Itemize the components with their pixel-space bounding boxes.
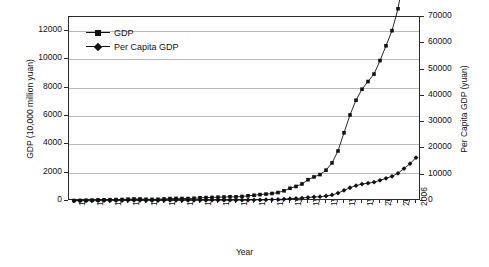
y-axis-left-tick-label: 0 xyxy=(18,194,62,204)
data-point-marker-square xyxy=(324,168,328,172)
legend-item-gdp: GDP xyxy=(86,26,179,39)
data-point-marker-square xyxy=(264,192,268,196)
data-point-marker-square xyxy=(384,44,388,48)
y-axis-right-tick-label: 0 xyxy=(428,194,472,204)
y-axis-right-tick-label: 40000 xyxy=(428,89,472,99)
y-axis-right-tick-label: 60000 xyxy=(428,36,472,46)
data-point-marker-square xyxy=(354,98,358,102)
data-point-marker-square xyxy=(252,193,256,197)
data-point-marker-diamond xyxy=(312,195,317,200)
data-point-marker-diamond xyxy=(300,196,305,201)
data-point-marker-square xyxy=(360,87,364,91)
diamond-marker-icon xyxy=(86,41,110,52)
y-axis-left-tick-label: 4000 xyxy=(18,137,62,147)
data-point-marker-square xyxy=(300,182,304,186)
y-axis-left-tick-mark xyxy=(64,200,68,201)
square-marker-icon xyxy=(86,27,110,38)
data-point-marker-square xyxy=(318,173,322,177)
data-point-marker-square xyxy=(246,194,250,198)
y-axis-left-tick-label: 12000 xyxy=(18,24,62,34)
data-point-marker-diamond xyxy=(306,195,311,200)
data-point-marker-diamond xyxy=(354,183,359,188)
data-point-marker-diamond xyxy=(342,188,347,193)
y-axis-left-tick-label: 2000 xyxy=(18,166,62,176)
x-axis-title: Year xyxy=(0,247,489,257)
data-point-marker-square xyxy=(390,29,394,33)
data-point-marker-diamond xyxy=(324,194,329,199)
y-axis-right-tick-label: 10000 xyxy=(428,168,472,178)
data-point-marker-square xyxy=(396,7,400,11)
legend-label-per-capita-gdp: Per Capita GDP xyxy=(114,42,179,52)
data-point-marker-square xyxy=(306,178,310,182)
data-point-marker-square xyxy=(282,189,286,193)
y-axis-left-tick-label: 8000 xyxy=(18,81,62,91)
data-point-marker-square xyxy=(330,161,334,165)
y-axis-right-tick-label: 70000 xyxy=(428,10,472,20)
legend-item-per-capita-gdp: Per Capita GDP xyxy=(86,40,179,53)
data-point-marker-square xyxy=(270,192,274,196)
data-point-marker-diamond xyxy=(348,185,353,190)
legend-label-gdp: GDP xyxy=(114,28,134,38)
data-point-marker-diamond xyxy=(384,176,389,181)
data-point-marker-square xyxy=(258,193,262,197)
data-point-marker-diamond xyxy=(282,197,287,202)
y-axis-right-tick-label: 30000 xyxy=(428,115,472,125)
data-point-marker-diamond xyxy=(330,193,335,198)
data-point-marker-square xyxy=(312,175,316,179)
y-axis-left-tick-label: 10000 xyxy=(18,52,62,62)
data-point-marker-square xyxy=(348,113,352,117)
data-point-marker-diamond xyxy=(336,191,341,196)
y-axis-right-tick-label: 50000 xyxy=(428,63,472,73)
data-point-marker-diamond xyxy=(372,180,377,185)
data-point-marker-square xyxy=(336,149,340,153)
data-point-marker-diamond xyxy=(366,181,371,186)
y-axis-left-tick-label: 6000 xyxy=(18,109,62,119)
data-point-marker-square xyxy=(366,80,370,84)
data-point-marker-diamond xyxy=(288,196,293,201)
data-point-marker-square xyxy=(378,59,382,63)
data-point-marker-diamond xyxy=(318,194,323,199)
data-point-marker-diamond xyxy=(294,196,299,201)
chart-legend: GDP Per Capita GDP xyxy=(86,26,179,54)
data-point-marker-diamond xyxy=(360,182,365,187)
data-point-marker-square xyxy=(372,72,376,76)
series-line-per-capita-gdp xyxy=(74,158,416,201)
y-axis-right-tick-label: 20000 xyxy=(428,141,472,151)
chart-figure: GDP (10,000 million yuan) Per Capita GDP… xyxy=(0,0,489,267)
data-point-marker-square xyxy=(342,131,346,135)
data-point-marker-diamond xyxy=(378,178,383,183)
data-point-marker-diamond xyxy=(390,174,395,179)
data-point-marker-square xyxy=(276,191,280,195)
data-point-marker-square xyxy=(288,186,292,190)
data-point-marker-square xyxy=(294,185,298,189)
